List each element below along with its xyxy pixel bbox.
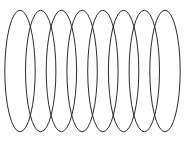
figure-background xyxy=(0,0,185,143)
figure-container xyxy=(0,0,185,143)
ellipse-figure-canvas xyxy=(0,0,185,143)
